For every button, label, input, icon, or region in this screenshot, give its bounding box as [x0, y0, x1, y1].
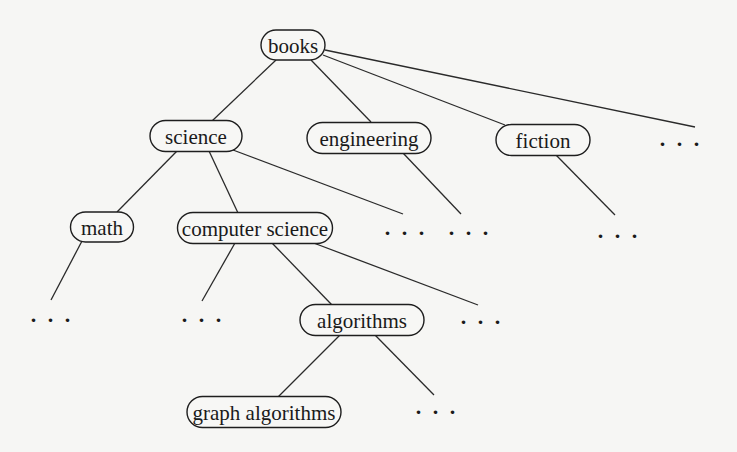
ellipsis-books-more: . . . — [660, 126, 703, 151]
ellipsis-fiction-more: . . . — [598, 218, 641, 243]
node-label: computer science — [182, 217, 328, 241]
edge-books-to-fiction — [323, 55, 505, 125]
edge-science-to-computer-science — [209, 151, 238, 213]
edge-books-to-books-more — [325, 50, 695, 127]
node-algorithms: algorithms — [300, 305, 424, 336]
node-label: fiction — [516, 129, 571, 153]
edge-fiction-to-fiction-more — [556, 155, 615, 215]
edge-algorithms-to-algorithms-more — [375, 335, 434, 395]
ellipses-layer: . . .. . .. . .. . .. . .. . .. . .. . . — [31, 126, 703, 419]
edge-books-to-engineering — [311, 60, 371, 122]
ellipsis-engineering-more: . . . — [449, 215, 492, 240]
node-fiction: fiction — [496, 125, 590, 156]
nodes-layer: booksscienceengineeringfictionmathcomput… — [71, 30, 591, 428]
node-label: algorithms — [317, 309, 407, 333]
ellipsis-algorithms-more: . . . — [416, 394, 459, 419]
edge-science-to-science-more — [233, 150, 403, 214]
ellipsis-cs-more-left: . . . — [182, 302, 225, 327]
edge-books-to-science — [212, 60, 276, 121]
node-graph-algorithms: graph algorithms — [187, 397, 341, 428]
edge-computer_science-to-algorithms — [272, 243, 332, 305]
edge-computer_science-to-cs-more-right — [311, 242, 478, 305]
node-science: science — [150, 121, 242, 152]
node-label: graph algorithms — [193, 401, 336, 425]
node-label: math — [81, 216, 123, 240]
edge-computer_science-to-cs-more-left — [202, 243, 235, 301]
ellipsis-math-more: . . . — [31, 302, 74, 327]
edge-engineering-to-engineering-more — [403, 153, 461, 214]
edge-science-to-math — [117, 151, 177, 212]
ellipsis-science-more: . . . — [385, 215, 428, 240]
node-label: books — [268, 34, 318, 58]
edge-math-to-math-more — [51, 241, 82, 300]
node-engineering: engineering — [307, 123, 431, 154]
edge-algorithms-to-graph-algorithms — [278, 335, 340, 397]
node-math: math — [71, 212, 134, 242]
node-label: science — [165, 125, 227, 149]
ellipsis-cs-more-right: . . . — [461, 304, 504, 329]
node-books: books — [261, 30, 325, 60]
node-computer-science: computer science — [178, 213, 333, 244]
node-label: engineering — [319, 127, 419, 151]
tree-diagram: booksscienceengineeringfictionmathcomput… — [0, 0, 737, 452]
